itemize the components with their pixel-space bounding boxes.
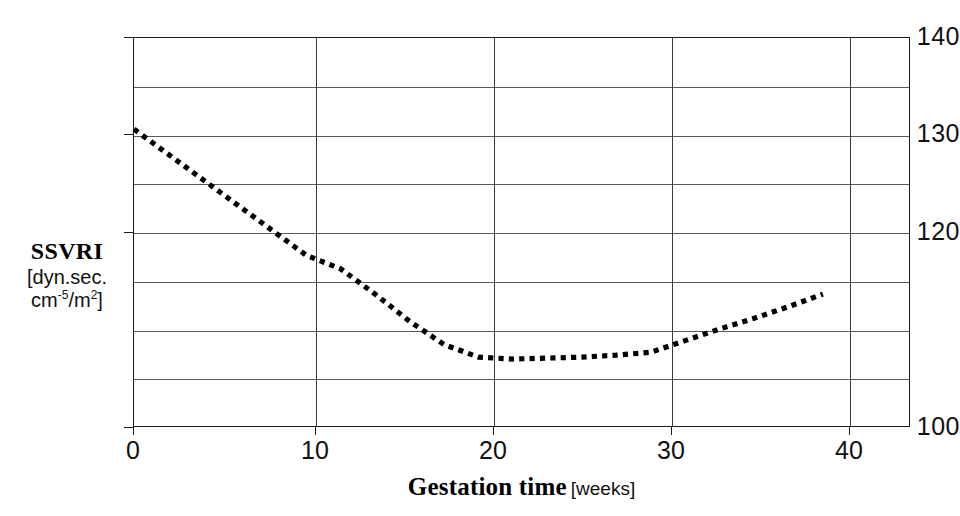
y-tick-mark bbox=[124, 37, 133, 38]
plot-area bbox=[133, 37, 910, 427]
y-tick-mark bbox=[124, 134, 133, 135]
x-tick-label: 10 bbox=[280, 438, 350, 463]
series-layer bbox=[134, 38, 909, 426]
x-tick-label: 0 bbox=[98, 438, 168, 463]
x-tick-mark bbox=[133, 427, 134, 435]
y-axis-units-line2: cm-5/m2] bbox=[6, 289, 128, 311]
y-axis-units-exp-minus5: -5 bbox=[58, 289, 69, 303]
x-tick-mark bbox=[315, 427, 316, 435]
x-tick-label: 30 bbox=[636, 438, 706, 463]
x-tick-label: 20 bbox=[458, 438, 528, 463]
y-axis-title: SSVRI [dyn.sec. cm-5/m2] bbox=[6, 238, 128, 312]
y-axis-units-bracket: ] bbox=[97, 289, 103, 311]
x-axis-units: [weeks] bbox=[571, 478, 635, 499]
y-axis-title-main: SSVRI bbox=[6, 238, 128, 265]
data-series-ssvri bbox=[134, 129, 823, 359]
y-tick-mark bbox=[124, 232, 133, 233]
x-tick-mark bbox=[493, 427, 494, 435]
x-tick-mark bbox=[671, 427, 672, 435]
y-axis-units-line1: [dyn.sec. bbox=[6, 266, 128, 288]
chart-figure: 140 130 120 100 0 10 20 30 40 SSVRI [dyn… bbox=[0, 0, 960, 516]
y-axis-units-cm: cm bbox=[31, 289, 58, 311]
x-tick-label: 40 bbox=[814, 438, 884, 463]
x-tick-mark bbox=[849, 427, 850, 435]
x-axis-title: Gestation time[weeks] bbox=[133, 473, 910, 501]
x-axis-title-main: Gestation time bbox=[408, 473, 567, 500]
y-tick-mark bbox=[124, 427, 133, 428]
y-axis-units-per-m: /m bbox=[68, 289, 90, 311]
